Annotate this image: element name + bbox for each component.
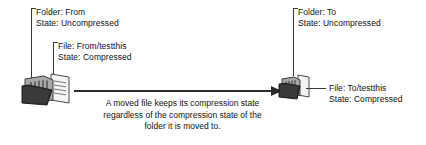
move-arrow-shaft bbox=[74, 90, 271, 92]
target-folder-icon bbox=[278, 74, 312, 104]
annotation-target-folder: Folder: To State: Uncompressed bbox=[298, 7, 381, 29]
annotation-source-folder: Folder: From State: Uncompressed bbox=[36, 7, 119, 29]
source-folder-icon bbox=[20, 72, 72, 108]
annotation-source-file-line1: File: From/testthis bbox=[58, 41, 132, 52]
leader-target-folder-line bbox=[293, 11, 294, 76]
annotation-source-folder-line1: Folder: From bbox=[36, 7, 119, 18]
annotation-target-file-line2: State: Compressed bbox=[329, 94, 403, 105]
annotation-target-folder-line2: State: Uncompressed bbox=[298, 18, 381, 29]
annotation-target-folder-line1: Folder: To bbox=[298, 7, 381, 18]
diagram-canvas: Folder: From State: Uncompressed File: F… bbox=[0, 0, 426, 145]
diagram-caption-line1: A moved file keeps its compression state bbox=[80, 98, 285, 110]
diagram-caption-line3: folder it is moved to. bbox=[80, 121, 285, 133]
diagram-caption: A moved file keeps its compression state… bbox=[80, 98, 285, 133]
annotation-source-folder-line2: State: Uncompressed bbox=[36, 18, 119, 29]
annotation-target-file-line1: File: To/testthis bbox=[329, 83, 403, 94]
leader-target-file-line bbox=[306, 88, 326, 89]
annotation-target-file: File: To/testthis State: Compressed bbox=[329, 83, 403, 105]
annotation-source-file-line2: State: Compressed bbox=[58, 52, 132, 63]
diagram-caption-line2: regardless of the compression state of t… bbox=[80, 110, 285, 122]
annotation-source-file: File: From/testthis State: Compressed bbox=[58, 41, 132, 63]
